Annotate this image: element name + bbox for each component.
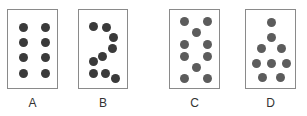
dot-icon — [203, 74, 212, 83]
dot-icon — [180, 52, 189, 61]
card-label-a: A — [23, 96, 43, 110]
dot-icon — [203, 40, 212, 49]
dot-icon — [108, 44, 117, 53]
dot-icon — [19, 69, 28, 78]
dot-icon — [98, 52, 107, 61]
dot-icon — [203, 17, 212, 26]
dot-icon — [282, 59, 291, 68]
card-label-b: B — [93, 96, 113, 110]
dot-icon — [180, 40, 189, 49]
dot-icon — [203, 52, 212, 61]
card-label-c: C — [185, 96, 205, 110]
dot-icon — [267, 18, 276, 27]
dot-icon — [19, 53, 28, 62]
dot-icon — [19, 23, 28, 32]
dot-icon — [89, 69, 98, 78]
dot-icon — [276, 73, 285, 82]
dot-icon — [101, 69, 110, 78]
dot-icon — [89, 57, 98, 66]
dot-icon — [41, 53, 50, 62]
dot-icon — [252, 59, 261, 68]
dot-icon — [111, 74, 120, 83]
dot-icon — [192, 63, 201, 72]
dot-icon — [89, 22, 98, 31]
dot-icon — [41, 69, 50, 78]
dot-icon — [180, 17, 189, 26]
dot-icon — [102, 23, 111, 32]
dot-icon — [267, 33, 276, 42]
dot-icon — [109, 33, 118, 42]
dot-icon — [267, 59, 276, 68]
card-label-d: D — [261, 96, 281, 110]
dot-icon — [192, 28, 201, 37]
card-a — [7, 9, 58, 89]
dot-icon — [180, 74, 189, 83]
card-c — [169, 9, 220, 89]
dot-icon — [277, 44, 286, 53]
dot-icon — [41, 38, 50, 47]
dot-icon — [257, 44, 266, 53]
dot-icon — [41, 23, 50, 32]
dot-icon — [19, 38, 28, 47]
dot-icon — [258, 73, 267, 82]
